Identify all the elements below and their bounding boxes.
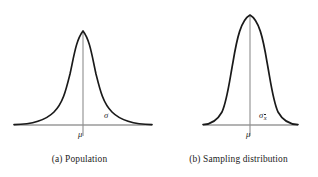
caption-population: (a) Population	[0, 154, 159, 164]
figure-canvas	[0, 0, 318, 177]
sigma-glyph: σ	[259, 110, 263, 120]
caption-sampling-distribution: (b) Sampling distribution	[159, 154, 318, 164]
two-normal-curves-figure: μ σ μ σx (a) Population (b) Sampling dis…	[0, 0, 318, 177]
mu-label-sampling: μ	[246, 129, 250, 139]
panel-population	[14, 31, 152, 136]
sigma-label-population: σ	[104, 110, 108, 120]
mu-label-population: μ	[78, 129, 82, 139]
xbar-subscript: x	[264, 114, 267, 121]
sigma-xbar-label-sampling: σx	[259, 110, 266, 120]
panel-sampling-distribution	[203, 15, 298, 136]
